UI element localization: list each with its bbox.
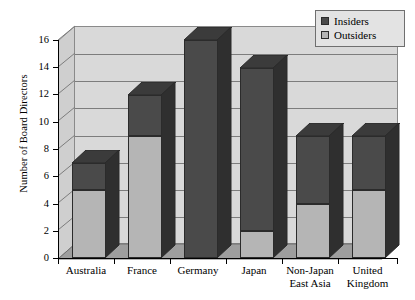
y-tick-8 [53,149,59,150]
y-tick-4 [53,204,59,205]
plot-area [58,26,398,258]
back-wall [74,26,398,244]
segment-insiders-france [128,95,162,136]
x-axis-line [58,258,398,259]
x-label-france: France [114,264,170,277]
bar-side-australia [105,150,121,259]
y-tick-16 [53,40,59,41]
gridline-8 [75,136,397,137]
x-label-united-kingdom-line2: Kingdom [338,277,397,290]
tick-connector-10 [58,106,76,122]
legend-label-insiders: Insiders [334,15,369,27]
x-label-united-kingdom-line1: United [338,264,397,277]
y-tick-12 [53,94,59,95]
gridline-12 [75,81,397,82]
x-label-united-kingdom: United Kingdom [338,264,397,289]
legend-label-outsiders: Outsiders [334,29,376,41]
x-label-france-line1: France [114,264,170,277]
legend-item-insiders: Insiders [321,14,399,28]
segment-outsiders-united-kingdom [352,190,386,258]
x-label-non-japan-east-asia-line1: Non-Japan [280,264,340,277]
legend: Insiders Outsiders [315,10,405,47]
bar-side-germany [217,27,233,259]
outsiders-swatch-icon [321,31,329,39]
bar-france [128,95,162,258]
bar-australia [72,163,106,258]
x-label-non-japan-east-asia-line2: East Asia [280,277,340,290]
bar-chart: Number of Board Directors [0,0,415,300]
x-label-australia-line1: Australia [58,264,114,277]
y-tick-label-16: 16 [23,35,49,45]
segment-insiders-australia [72,163,106,190]
x-label-germany-line1: Germany [170,264,226,277]
gridline-14 [75,54,397,55]
segment-insiders-japan [240,68,274,231]
bar-side-united-kingdom [385,123,401,259]
x-label-non-japan-east-asia: Non-Japan East Asia [280,264,340,289]
tick-connector-8 [58,134,76,150]
x-label-japan: Japan [226,264,282,277]
segment-outsiders-japan [240,231,274,258]
segment-insiders-germany [184,40,218,258]
bar-non-japan-east-asia [296,136,330,258]
segment-outsiders-australia [72,190,106,258]
y-tick-label-4: 4 [23,199,49,209]
legend-item-outsiders: Outsiders [321,28,399,42]
bar-japan [240,68,274,258]
y-tick-label-10: 10 [23,117,49,127]
bar-side-non-japan-east-asia [329,123,345,259]
tick-connector-16 [58,25,76,41]
y-tick-label-6: 6 [23,171,49,181]
tick-connector-14 [58,52,76,68]
bar-united-kingdom [352,136,386,258]
bar-side-france [161,82,177,259]
y-tick-14 [53,67,59,68]
insiders-swatch-icon [321,17,329,25]
y-tick-label-2: 2 [23,226,49,236]
x-label-japan-line1: Japan [226,264,282,277]
bar-germany [184,40,218,258]
segment-outsiders-non-japan-east-asia [296,204,330,258]
x-label-australia: Australia [58,264,114,277]
gridline-4 [75,190,397,191]
y-tick-6 [53,176,59,177]
segment-outsiders-france [128,136,162,258]
gridline-6 [75,163,397,164]
gridline-2 [75,217,397,218]
segment-insiders-united-kingdom [352,136,386,190]
y-tick-label-14: 14 [23,62,49,72]
tick-connector-12 [58,79,76,95]
bar-side-japan [273,55,289,259]
y-tick-label-0: 0 [23,253,49,263]
y-tick-2 [53,231,59,232]
x-tick-6 [397,259,398,264]
segment-insiders-non-japan-east-asia [296,136,330,204]
y-tick-label-8: 8 [23,144,49,154]
y-tick-label-12: 12 [23,89,49,99]
x-label-germany: Germany [170,264,226,277]
y-axis-title: Number of Board Directors [18,49,29,219]
gridline-10 [75,108,397,109]
y-tick-10 [53,122,59,123]
